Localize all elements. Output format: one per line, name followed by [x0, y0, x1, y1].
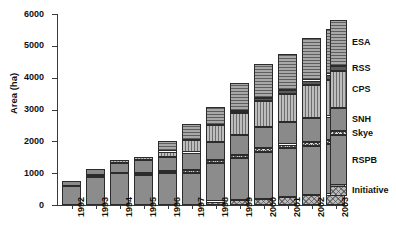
- x-tick: [216, 205, 217, 209]
- bar-segment-esa: [158, 141, 177, 151]
- y-tick-label: 0: [12, 201, 44, 210]
- bar-segment-skye: [86, 175, 105, 177]
- bar-segment-rss: [302, 81, 321, 86]
- bar-segment-rspb: [206, 163, 225, 201]
- y-tick: [52, 78, 57, 79]
- bar-segment-esa: [254, 64, 273, 98]
- bar-segment-rspb: [278, 148, 297, 196]
- x-tick-label-2001: 2001: [292, 197, 302, 243]
- bar-segment-snh: [254, 127, 273, 148]
- bar-segment-esa: [278, 54, 297, 91]
- x-tick-label-1995: 1995: [148, 197, 158, 243]
- bar-segment-skye: [278, 145, 297, 149]
- y-axis-line: [57, 14, 58, 205]
- bar-segment-cps: [302, 85, 321, 118]
- bar-segment-snh: [278, 122, 297, 144]
- bar-segment-rss: [230, 111, 249, 113]
- x-tick-label-1993: 1993: [100, 197, 110, 243]
- bar-segment-snh: [158, 157, 177, 172]
- bar-segment-cps: [134, 157, 153, 160]
- bar-segment-cps: [206, 125, 225, 142]
- y-tick: [52, 110, 57, 111]
- x-tick: [120, 205, 121, 209]
- x-tick: [168, 205, 169, 209]
- y-axis-title: Area (ha): [8, 59, 19, 129]
- bar-segment-cps: [158, 152, 177, 157]
- x-tick: [336, 205, 337, 209]
- bar-segment-snh: [230, 135, 249, 155]
- bar-segment-snh: [302, 118, 321, 141]
- y-tick: [52, 14, 57, 15]
- bar-segment-snh: [110, 163, 129, 174]
- y-tick-label: 6000: [12, 10, 44, 19]
- bar-segment-rspb: [230, 158, 249, 200]
- bar-segment-skye: [254, 148, 273, 152]
- x-tick-label-2003: 2003: [340, 197, 350, 243]
- y-tick-label: 2000: [12, 137, 44, 146]
- legend-label-initiative: Initiative: [352, 186, 389, 195]
- x-tick: [240, 205, 241, 209]
- x-tick-label-1992: 1992: [76, 197, 86, 243]
- y-tick-label: 4000: [12, 73, 44, 82]
- legend-label-esa: ESA: [352, 38, 371, 47]
- bar-segment-esa: [206, 107, 225, 125]
- x-tick: [192, 205, 193, 209]
- bar-segment-esa: [302, 38, 321, 80]
- y-tick: [52, 46, 57, 47]
- y-tick: [52, 141, 57, 142]
- bar-segment-snh: [86, 169, 105, 175]
- bar-segment-snh: [134, 160, 153, 173]
- bar-segment-snh: [206, 142, 225, 161]
- x-tick: [264, 205, 265, 209]
- bar-segment-skye: [206, 160, 225, 163]
- bar-segment-cps: [278, 94, 297, 123]
- x-tick-label-1997: 1997: [196, 197, 206, 243]
- bar-segment-snh: [182, 153, 201, 171]
- legend-label-snh: SNH: [352, 115, 371, 124]
- bar-segment-skye: [134, 173, 153, 175]
- x-tick-label-1996: 1996: [172, 197, 182, 243]
- bar-segment-rss: [278, 90, 297, 94]
- bar-segment-rspb: [302, 146, 321, 196]
- y-tick-label: 3000: [12, 105, 44, 114]
- bar-segment-skye: [302, 142, 321, 146]
- x-tick-label-2000: 2000: [268, 197, 278, 243]
- legend-label-rss: RSS: [352, 64, 371, 73]
- legend-label-skye: Skye: [352, 129, 373, 138]
- bar-segment-skye: [230, 155, 249, 158]
- bar-segment-cps: [230, 113, 249, 135]
- legend-label-cps: CPS: [352, 85, 371, 94]
- x-tick: [96, 205, 97, 209]
- bar-segment-esa: [230, 83, 249, 111]
- bar-segment-rspb: [254, 152, 273, 200]
- bar-segment-cps: [182, 140, 201, 152]
- bar-segment-cps: [254, 101, 273, 127]
- x-tick-label-1999: 1999: [244, 197, 254, 243]
- bar-segment-snh: [62, 181, 81, 186]
- x-tick: [144, 205, 145, 209]
- legend-outline: [330, 20, 347, 196]
- x-tick: [288, 205, 289, 209]
- bar-segment-skye: [182, 170, 201, 173]
- x-tick-label-1994: 1994: [124, 197, 134, 243]
- bar-segment-esa: [182, 124, 201, 141]
- legend-swatch-bar: [330, 20, 347, 196]
- y-tick-label: 1000: [12, 169, 44, 178]
- legend-label-rspb: RSPB: [352, 156, 377, 165]
- y-tick-label: 5000: [12, 41, 44, 50]
- y-tick: [52, 205, 57, 206]
- bar-segment-cps: [110, 160, 129, 163]
- x-tick-label-1998: 1998: [220, 197, 230, 243]
- x-tick: [72, 205, 73, 209]
- stacked-bar-chart: Area (ha) 0100020003000400050006000 1992…: [0, 0, 396, 245]
- x-tick-label-2002: 2002: [316, 197, 326, 243]
- x-tick: [312, 205, 313, 209]
- y-tick: [52, 173, 57, 174]
- bar-segment-skye: [158, 171, 177, 173]
- bar-segment-rss: [254, 98, 273, 101]
